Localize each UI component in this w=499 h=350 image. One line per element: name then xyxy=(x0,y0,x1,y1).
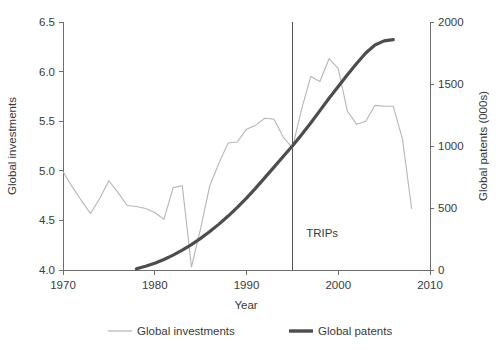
y-tick-label-right: 0 xyxy=(438,264,444,276)
y-tick-label-right: 2000 xyxy=(438,16,464,28)
series-layer xyxy=(63,40,412,269)
annotation-layer: TRIPs xyxy=(292,22,338,270)
x-tick-label: 2000 xyxy=(325,279,351,291)
x-tick-label: 1980 xyxy=(142,279,168,291)
x-tick-label: 1990 xyxy=(234,279,260,291)
y-tick-label-right: 500 xyxy=(438,202,457,214)
annotation-label: TRIPs xyxy=(306,227,338,239)
y-tick-label-left: 5.0 xyxy=(39,165,55,177)
y-tick-label-right: 1000 xyxy=(438,140,464,152)
y-axis-title-right: Global patents (000s) xyxy=(477,91,489,201)
y-axis-title-left: Global investments xyxy=(6,97,18,195)
left-axis: 4.04.55.05.56.06.5 xyxy=(39,16,63,276)
series-line-global-investments xyxy=(63,59,412,267)
x-tick-label: 1970 xyxy=(50,279,76,291)
right-axis: 0500100015002000 xyxy=(430,16,464,276)
chart-figure: 4.04.55.05.56.06.5 0500100015002000 1970… xyxy=(0,0,499,350)
chart-legend: Global investmentsGlobal patents xyxy=(108,325,392,337)
y-tick-label-left: 6.5 xyxy=(39,16,55,28)
y-tick-label-left: 4.5 xyxy=(39,214,55,226)
x-tick-label: 2010 xyxy=(417,279,443,291)
legend-label: Global patents xyxy=(318,325,392,337)
x-axis-title: Year xyxy=(234,299,257,311)
y-tick-label-right: 1500 xyxy=(438,78,464,90)
series-line-global-patents xyxy=(136,40,393,269)
y-tick-label-left: 5.5 xyxy=(39,115,55,127)
legend-label: Global investments xyxy=(137,325,235,337)
dual-axis-line-chart: 4.04.55.05.56.06.5 0500100015002000 1970… xyxy=(0,0,499,350)
y-tick-label-left: 6.0 xyxy=(39,66,55,78)
x-axis: 19701980199020002010 xyxy=(50,270,443,291)
y-tick-label-left: 4.0 xyxy=(39,264,55,276)
